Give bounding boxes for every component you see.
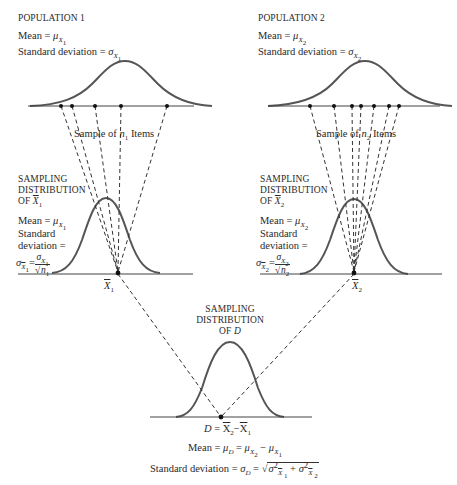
sub-index: 1: [118, 55, 122, 63]
sub-index: 2: [358, 286, 362, 294]
sampling-d-title: SAMPLING DISTRIBUTION OF D: [190, 304, 270, 337]
sd-label: Standard deviation =: [150, 463, 238, 474]
population-1-sample-label: Sample of n1 Items: [74, 127, 154, 140]
sample-text: Sample of: [74, 128, 117, 139]
sub-d: D: [245, 469, 250, 477]
equals: =: [253, 463, 259, 474]
sampling-2-sd-formula: σX2=σX2√n2: [256, 252, 290, 276]
sub-index: 1: [46, 270, 50, 278]
population-1-mean: Mean = μX1: [18, 29, 66, 43]
sub-x-bar: X: [278, 469, 282, 477]
title-line: OF X1: [18, 196, 86, 207]
sampling-2-sd: Standard deviation =: [260, 228, 308, 252]
sample-1-point: [93, 104, 97, 108]
sd-label: Standard deviation =: [18, 46, 106, 57]
population-1-curve: [30, 61, 212, 106]
population-2-sd: Standard deviation = σX2: [258, 45, 361, 59]
sd-label: Standard: [18, 228, 66, 240]
mean-label: Mean =: [258, 30, 290, 41]
sampling-1-sd-formula: σX1=σX1√n1: [16, 252, 50, 276]
of-text: OF: [18, 196, 30, 206]
sample-2-point: [372, 104, 376, 108]
mean-label: Mean =: [18, 30, 50, 41]
of-text: OF: [260, 196, 272, 206]
x2-bar-label: X2: [352, 279, 362, 292]
x1-to-d-line: [118, 274, 221, 417]
of-text: OF: [219, 326, 231, 336]
sqrt-content: σ2X 1 + σ2X 2: [267, 462, 318, 474]
population-2-curve: [268, 61, 452, 106]
population-2-sample-label: Sample of n2 Items: [316, 127, 396, 140]
sampling-d-curve: [176, 342, 284, 417]
title-line: DISTRIBUTION: [260, 185, 328, 196]
square: 2: [304, 459, 308, 469]
sub-index: 2: [286, 270, 290, 278]
sd-label: deviation =: [18, 240, 66, 252]
population-2-mean: Mean = μX2: [258, 29, 306, 43]
sd-label: deviation =: [260, 240, 308, 252]
d-definition-label: D = X2−X1: [204, 422, 251, 435]
sample-2-point: [308, 104, 312, 108]
items-text: Items: [131, 128, 154, 139]
sample-2-point: [332, 104, 336, 108]
sampling-distribution-of-difference-diagram: POPULATION 1 Mean = μX1 Standard deviati…: [0, 0, 457, 485]
sample-2-point: [359, 104, 363, 108]
sub-x-bar: X: [308, 469, 312, 477]
sd-fraction: σX1√n1: [35, 252, 50, 276]
x2-bar-point: [352, 271, 357, 276]
sampling-2-mean: Mean = μX2: [260, 214, 308, 228]
minus: −: [260, 442, 266, 453]
sample-1-point: [119, 104, 123, 108]
sub-d: D: [228, 448, 233, 456]
diagram-graphics: [0, 0, 457, 485]
square: 2: [274, 459, 278, 469]
title-line: OF D: [190, 326, 270, 337]
population-1-title: POPULATION 1: [18, 12, 85, 25]
equals: =: [214, 423, 220, 434]
sample-2-point: [397, 104, 401, 108]
mean-label: Mean =: [18, 215, 50, 226]
n-index: 2: [367, 134, 371, 142]
title-line: SAMPLING: [18, 174, 86, 185]
sub-index: 1: [247, 429, 251, 437]
x1-bar-label: X1: [104, 279, 114, 292]
sample-2-point: [387, 104, 391, 108]
title-line: DISTRIBUTION: [18, 185, 86, 196]
sampling-1-title: SAMPLING DISTRIBUTION OF X1: [18, 174, 86, 207]
d-symbol: D: [234, 326, 241, 336]
x1-bar-point: [116, 271, 121, 276]
title-line: SAMPLING: [190, 304, 270, 315]
equals: =: [236, 442, 242, 453]
sample-text: Sample of: [316, 128, 359, 139]
population-1-sd: Standard deviation = σX1: [18, 45, 121, 59]
sample-2-point: [350, 104, 354, 108]
sd-label: Standard deviation =: [258, 46, 346, 57]
sub-index: 2: [281, 201, 285, 209]
d-point: [219, 415, 224, 420]
mean-label: Mean =: [260, 215, 292, 226]
sub-index: 2: [314, 472, 318, 480]
sampling-2-title: SAMPLING DISTRIBUTION OF X2: [260, 174, 328, 207]
title-line: SAMPLING: [260, 174, 328, 185]
population-2-title: POPULATION 2: [258, 12, 325, 25]
sampling-d-mean: Mean = μD = μX2 − μX1: [188, 441, 282, 455]
sub-index: 1: [284, 472, 288, 480]
sub-index: 1: [110, 286, 114, 294]
mean-label: Mean =: [188, 442, 220, 453]
x2-to-d-line: [221, 274, 354, 417]
sampling-1-curve: [52, 198, 160, 273]
sub-index: 2: [265, 266, 269, 274]
sample-1-point: [59, 104, 63, 108]
sub-index: 1: [39, 201, 43, 209]
n-index: 1: [125, 134, 129, 142]
items-text: Items: [373, 128, 396, 139]
sample-1-point: [70, 104, 74, 108]
title-line: OF X2: [260, 196, 328, 207]
sub-index: 2: [358, 55, 362, 63]
sampling-1-sd: Standard deviation =: [18, 228, 66, 252]
d-symbol: D: [204, 423, 212, 434]
sd-fraction: σX2√n2: [275, 252, 290, 276]
sub-index: 1: [25, 266, 29, 274]
plus: +: [290, 463, 296, 474]
sampling-1-mean: Mean = μX1: [18, 214, 66, 228]
